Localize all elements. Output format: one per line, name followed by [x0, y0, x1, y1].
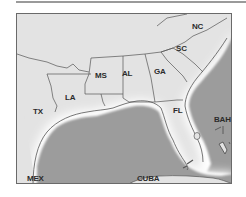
- label-mississippi: MS: [95, 72, 107, 80]
- label-north-carolina: NC: [192, 23, 203, 31]
- lake-okeechobee: [194, 133, 200, 140]
- label-bahamas: BAH: [214, 116, 231, 124]
- label-texas: TX: [33, 108, 43, 116]
- label-florida: FL: [173, 107, 182, 115]
- map-southeast-us-gulf: NC SC GA AL MS LA TX FL BAH MEX CUBA: [16, 13, 232, 184]
- label-alabama: AL: [122, 70, 132, 78]
- map-graphic: [17, 14, 232, 184]
- label-georgia: GA: [154, 68, 166, 76]
- label-louisiana: LA: [65, 94, 75, 102]
- label-south-carolina: SC: [176, 45, 187, 53]
- label-cuba: CUBA: [137, 175, 159, 183]
- label-mexico: MEX: [27, 175, 44, 183]
- top-rule-divider: [16, 1, 246, 3]
